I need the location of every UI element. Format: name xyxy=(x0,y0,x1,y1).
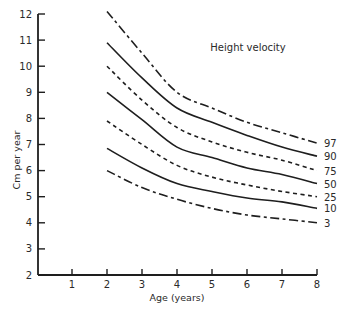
series-label-p3: 3 xyxy=(324,218,330,229)
y-tick-label: 4 xyxy=(26,217,32,228)
series-label-p25: 25 xyxy=(324,192,337,203)
series-label-p75: 75 xyxy=(324,166,337,177)
y-tick-label: 8 xyxy=(26,113,32,124)
series-label-p97: 97 xyxy=(324,138,337,149)
x-axis-title: Age (years) xyxy=(150,292,205,303)
x-tick-label: 8 xyxy=(314,279,320,290)
x-tick-label: 2 xyxy=(104,279,110,290)
x-tick-label: 7 xyxy=(279,279,285,290)
curve-p90 xyxy=(107,43,317,157)
x-tick-label: 3 xyxy=(139,279,145,290)
y-tick-label: 7 xyxy=(26,139,32,150)
curve-p25 xyxy=(107,121,317,197)
curve-p50 xyxy=(107,92,317,183)
y-tick-label: 2 xyxy=(26,270,32,281)
y-axis-title: Cm per year xyxy=(11,130,22,189)
curve-p3 xyxy=(107,171,317,223)
y-tick-label: 10 xyxy=(19,61,32,72)
x-tick-label: 6 xyxy=(244,279,250,290)
height-velocity-chart: 2345678910111212345678 9790755025103 Hei… xyxy=(0,0,343,311)
series-label-p10: 10 xyxy=(324,203,337,214)
x-tick-label: 4 xyxy=(174,279,180,290)
x-tick-label: 5 xyxy=(209,279,215,290)
y-tick-label: 5 xyxy=(26,191,32,202)
curve-p97 xyxy=(107,11,317,143)
series-labels: 9790755025103 xyxy=(324,138,337,229)
y-tick-label: 9 xyxy=(26,87,32,98)
y-tick-label: 12 xyxy=(19,9,32,20)
series-label-p50: 50 xyxy=(324,179,337,190)
y-tick-label: 3 xyxy=(26,243,32,254)
chart-title: Height velocity xyxy=(210,42,285,53)
y-tick-label: 6 xyxy=(26,165,32,176)
y-tick-label: 11 xyxy=(19,35,32,46)
x-tick-label: 1 xyxy=(69,279,75,290)
series-label-p90: 90 xyxy=(324,151,337,162)
curve-p75 xyxy=(107,66,317,170)
